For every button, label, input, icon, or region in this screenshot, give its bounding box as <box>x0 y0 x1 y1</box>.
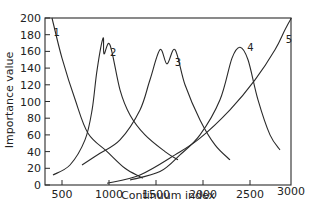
x-tick-label: 2500 <box>236 188 264 201</box>
x-axis-label: Continuum index <box>121 189 215 202</box>
y-tick-label: 60 <box>27 129 41 142</box>
curve-label-2: 2 <box>110 47 116 58</box>
curve-4 <box>130 47 280 180</box>
y-tick-label: 80 <box>27 112 41 125</box>
curve-5 <box>107 18 291 183</box>
y-tick-label: 160 <box>20 45 41 58</box>
x-tick-label: 3000 <box>277 185 305 198</box>
curve-label-1: 1 <box>54 27 60 38</box>
chart: 020406080100120140160180200 500100015002… <box>0 0 313 220</box>
y-axis-label: Importance value <box>3 51 16 148</box>
curve-3 <box>82 49 230 165</box>
x-tick-label: 1000 <box>95 188 123 201</box>
x-tick-label: 500 <box>52 188 73 201</box>
y-tick-label: 140 <box>20 62 41 75</box>
y-tick-label: 0 <box>34 179 41 192</box>
curves: 12345 <box>52 18 292 183</box>
curve-2 <box>53 38 178 175</box>
plot-frame <box>45 18 291 185</box>
y-tick-label: 20 <box>27 162 41 175</box>
curve-label-3: 3 <box>175 57 181 68</box>
curve-label-5: 5 <box>286 34 292 45</box>
curve-label-4: 4 <box>247 42 253 53</box>
y-tick-label: 40 <box>27 146 41 159</box>
y-tick-label: 180 <box>20 29 41 42</box>
y-tick-label: 120 <box>20 79 41 92</box>
y-tick-label: 200 <box>20 12 41 25</box>
y-tick-label: 100 <box>20 96 41 109</box>
curve-1 <box>52 18 143 178</box>
